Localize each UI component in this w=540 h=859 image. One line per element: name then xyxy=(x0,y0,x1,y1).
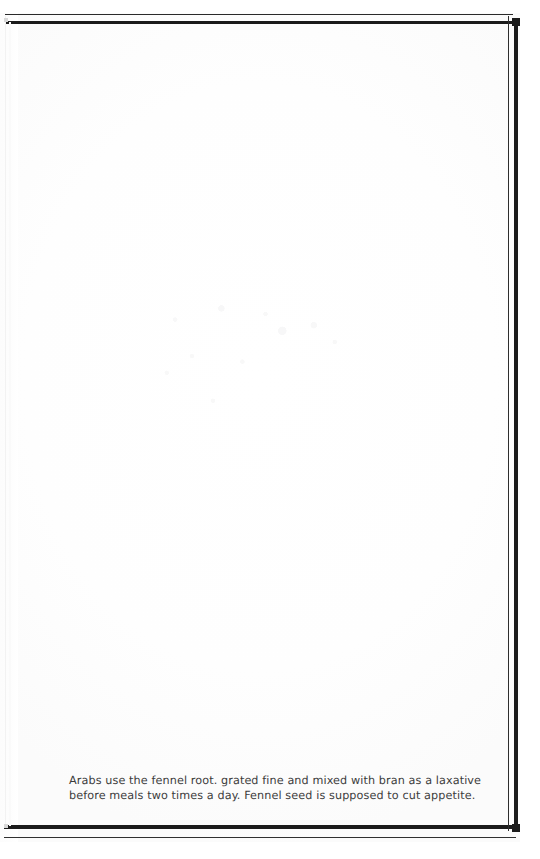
footnote-line-2: before meals two times a day. Fennel see… xyxy=(69,788,473,803)
frame-corner-top-right xyxy=(512,18,520,26)
frame-rule-left-thin xyxy=(5,16,6,828)
frame-rule-left-thick xyxy=(9,22,11,826)
frame-rule-bottom-thin xyxy=(4,837,516,838)
footnote-block: Arabs use the fennel root. grated fine a… xyxy=(69,773,473,804)
frame-rule-bottom-thick xyxy=(4,825,516,829)
frame-corner-top-left xyxy=(4,18,8,22)
frame-rule-right-thick xyxy=(514,22,518,828)
frame-corner-bottom-left xyxy=(4,824,8,828)
frame-rule-top-thin xyxy=(5,14,513,15)
scanned-page: Arabs use the fennel root. grated fine a… xyxy=(0,0,540,859)
scan-bleed-top xyxy=(0,0,540,13)
page-paper-background xyxy=(0,0,540,859)
frame-corner-bottom-right xyxy=(512,824,520,832)
frame-rule-top-thick xyxy=(5,21,513,24)
scan-bleed-right xyxy=(520,0,540,859)
footnote-line-1: Arabs use the fennel root. grated fine a… xyxy=(69,773,473,788)
scan-bleed-bottom xyxy=(0,842,540,859)
frame-rule-right-thin xyxy=(508,16,509,831)
